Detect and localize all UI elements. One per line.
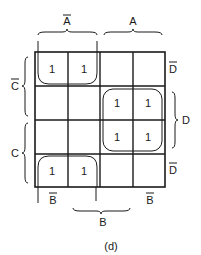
brace-a xyxy=(104,29,162,35)
cell-r0-c1: 1 xyxy=(81,63,87,75)
label-c-bar: C xyxy=(11,80,19,92)
brace-b xyxy=(73,208,130,214)
brace-c xyxy=(22,123,28,183)
brace-a-bar xyxy=(38,29,97,35)
label-b: B xyxy=(99,216,106,228)
cell-r1-c2: 1 xyxy=(114,97,120,109)
label-d: D xyxy=(182,114,190,126)
cell-r3-c0: 1 xyxy=(49,165,55,177)
label-a-bar: A xyxy=(63,15,71,27)
label-b-bar-right: B xyxy=(146,194,153,206)
label-d-bar-top: D xyxy=(169,63,177,75)
cell-r2-c2: 1 xyxy=(114,131,120,143)
karnaugh-map-diagram: A A 1 1 1 1 1 1 1 1 C C D D D B B B (d) xyxy=(0,0,201,255)
caption: (d) xyxy=(104,240,117,252)
label-d-bar-bottom: D xyxy=(169,164,177,176)
label-a: A xyxy=(129,15,137,27)
label-c: C xyxy=(11,147,19,159)
brace-c-bar xyxy=(22,57,28,116)
brace-d xyxy=(172,92,178,148)
label-b-bar-left: B xyxy=(49,194,56,206)
cell-r1-c3: 1 xyxy=(145,97,151,109)
cell-r3-c1: 1 xyxy=(81,165,87,177)
cell-r0-c0: 1 xyxy=(49,63,55,75)
cell-r2-c3: 1 xyxy=(145,131,151,143)
